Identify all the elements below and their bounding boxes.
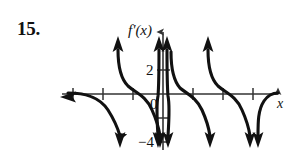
curve-arrowheads <box>60 36 263 148</box>
curve-branch-2 <box>118 50 160 136</box>
curve-branch-3 <box>157 50 159 136</box>
curve-group <box>68 50 278 136</box>
y-axis-function-label: f'(x) <box>128 22 152 39</box>
curve-branch-7 <box>258 93 278 136</box>
y-tick-label-negative-4: −4 <box>138 134 154 151</box>
curve-branch-6 <box>208 50 250 136</box>
origin-label: 0 <box>150 96 158 113</box>
curve-branch-1 <box>68 93 120 136</box>
y-tick-label-2: 2 <box>146 62 154 79</box>
x-axis-label: x <box>277 96 283 112</box>
curve-branch-4 <box>167 50 169 136</box>
